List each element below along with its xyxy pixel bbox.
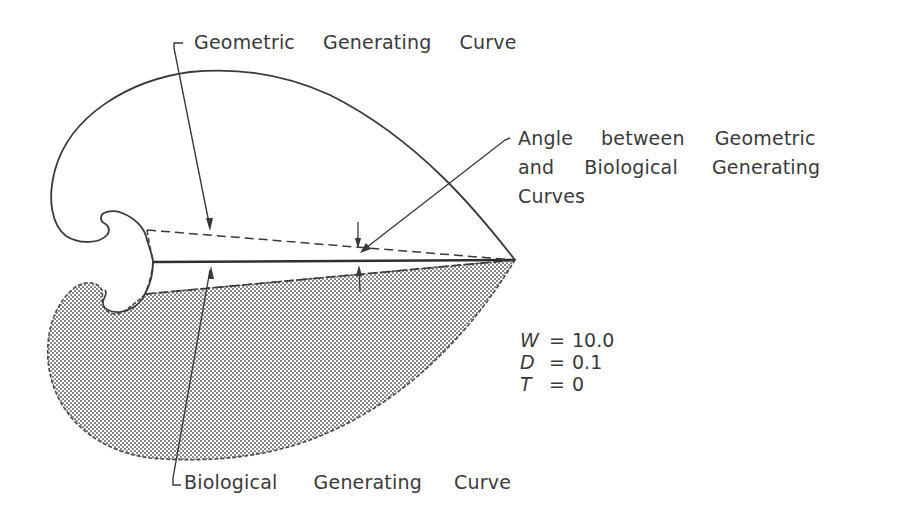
biological-curve-label: BiologicalGeneratingCurve: [184, 471, 511, 493]
label-word: between: [601, 127, 685, 149]
shell-diagram: GeometricGeneratingCurve AnglebetweenGeo…: [0, 0, 901, 523]
arrowhead-icon: [356, 265, 362, 276]
param-name: T: [520, 374, 542, 395]
label-word: Generating: [712, 156, 820, 178]
label-word: Biological: [184, 471, 278, 493]
label-word: Biological: [584, 156, 678, 178]
angle-label-line2: andBiologicalGenerating: [518, 156, 820, 178]
label-word: Geometric: [194, 31, 295, 53]
label-word: Generating: [314, 471, 422, 493]
label-word: Curve: [459, 31, 516, 53]
param-eq: =: [542, 330, 572, 351]
param-t: T=0: [520, 374, 584, 395]
angle-label-line1: AnglebetweenGeometric: [518, 127, 816, 149]
label-word: Angle: [518, 127, 573, 149]
lower-shaded-whorl: [48, 260, 515, 460]
angle-label-line3: Curves: [518, 185, 585, 207]
param-value: 0: [572, 373, 584, 395]
biological-generating-curve: [153, 260, 515, 262]
label-word: Curve: [454, 471, 511, 493]
label-word: Geometric: [715, 127, 816, 149]
param-d: D=0.1: [520, 352, 602, 373]
geometric-curve-label: GeometricGeneratingCurve: [194, 31, 517, 53]
param-name: D: [520, 352, 542, 373]
geometric-generating-curve: [147, 230, 515, 260]
angle-label-leader: [362, 138, 510, 251]
label-word: and: [518, 156, 554, 178]
param-w: W=10.0: [520, 330, 614, 351]
param-value: 0.1: [572, 351, 602, 373]
label-word: Generating: [323, 31, 431, 53]
param-eq: =: [542, 352, 572, 373]
arrowhead-icon: [206, 218, 213, 231]
param-value: 10.0: [572, 329, 614, 351]
shell-cross-section-drawing: [0, 0, 901, 523]
param-name: W: [520, 330, 542, 351]
param-eq: =: [542, 374, 572, 395]
